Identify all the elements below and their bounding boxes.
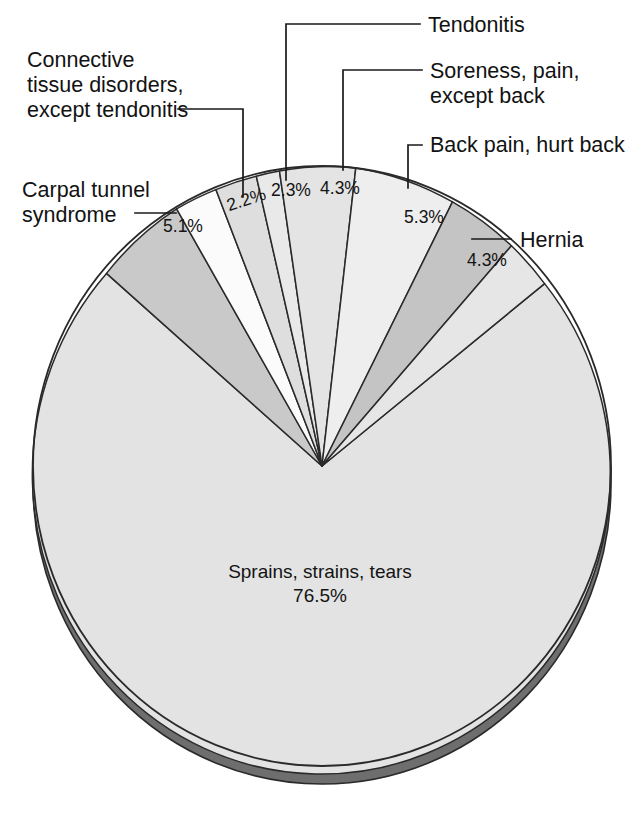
label-carpal-tunnel-line2: syndrome xyxy=(22,203,116,227)
label-hernia: Hernia xyxy=(520,228,583,252)
label-connective-tissue-line2: tissue disorders, xyxy=(27,73,184,97)
label-sprains-strains-tears: Sprains, strains, tears xyxy=(228,561,412,582)
label-carpal-tunnel-line1: Carpal tunnel xyxy=(22,178,150,202)
percent-tendonitis: 2.3% xyxy=(271,180,311,200)
leader-line-tendonitis xyxy=(286,24,420,180)
label-soreness-pain-line2: except back xyxy=(430,84,545,108)
pie-chart-svg: Tendonitis Connective tissue disorders, … xyxy=(0,0,640,817)
pie-slices xyxy=(32,166,611,774)
label-connective-tissue-line1: Connective xyxy=(27,48,135,72)
percent-hernia: 4.3% xyxy=(467,250,507,270)
percent-back-pain: 5.3% xyxy=(404,207,444,227)
percent-soreness-pain: 4.3% xyxy=(320,178,360,198)
percent-sprains-strains-tears: 76.5% xyxy=(293,585,347,606)
percent-carpal-tunnel-syndrome: 5.1% xyxy=(163,216,203,236)
label-connective-tissue-line3: except tendonitis xyxy=(27,98,188,122)
leader-line-soreness-pain xyxy=(343,70,422,170)
label-back-pain: Back pain, hurt back xyxy=(430,133,625,157)
label-tendonitis: Tendonitis xyxy=(428,13,525,37)
pie-chart-figure: Tendonitis Connective tissue disorders, … xyxy=(0,0,640,817)
label-soreness-pain-line1: Soreness, pain, xyxy=(430,59,579,83)
